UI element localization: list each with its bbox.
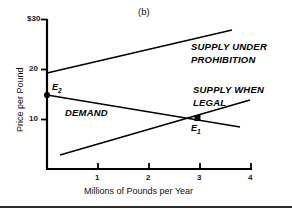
equilibrium-point-e2-marker — [44, 92, 50, 98]
x-axis-title: Millions of Pounds per Year — [84, 187, 193, 196]
y-axis-title: Price per Pound — [16, 67, 25, 132]
supply-when-legal-label-line2: LEGAL — [193, 98, 226, 108]
y-tick-label-30: $30 — [27, 15, 40, 23]
figure-panel: (b) $30 20 10 1 2 3 4 Price per Pound Mi… — [0, 0, 292, 210]
demand-label: DEMAND — [65, 108, 108, 118]
x-tick-label-1: 1 — [95, 174, 99, 182]
e1-subscript: 1 — [197, 128, 201, 135]
equilibrium-point-e1-label: E1 — [191, 124, 201, 135]
supply-when-legal-label-line1: SUPPLY WHEN — [193, 85, 264, 95]
bottom-divider-rule — [0, 206, 292, 208]
supply-under-prohibition-label-line1: SUPPLY UNDER — [191, 42, 267, 52]
y-tick-label-20: 20 — [29, 65, 38, 73]
panel-id-label: (b) — [138, 7, 150, 17]
supply-under-prohibition-label-line2: PROHIBITION — [191, 55, 255, 65]
equilibrium-point-e1-marker — [195, 115, 201, 121]
y-tick-label-10: 10 — [29, 115, 38, 123]
x-tick-label-4: 4 — [248, 174, 252, 182]
x-tick-label-3: 3 — [197, 174, 201, 182]
equilibrium-point-e2-label: E2 — [52, 83, 62, 94]
e2-subscript: 2 — [58, 87, 62, 94]
x-tick-label-2: 2 — [146, 174, 150, 182]
